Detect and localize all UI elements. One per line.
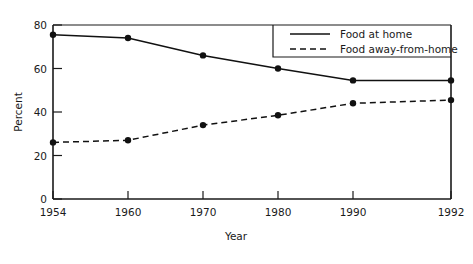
y-tick-label-0: 0 bbox=[40, 193, 47, 205]
y-axis-ticks bbox=[53, 25, 62, 199]
x-tick-label-1970: 1970 bbox=[190, 206, 217, 218]
data-point bbox=[448, 77, 454, 83]
data-point bbox=[50, 139, 56, 145]
legend-label-food-away-from-home: Food away-from-home bbox=[340, 43, 458, 55]
data-point bbox=[275, 112, 281, 118]
series-food-away-from-home-line bbox=[53, 100, 451, 142]
data-point bbox=[200, 122, 206, 128]
data-point bbox=[350, 100, 356, 106]
y-axis-title: Percent bbox=[12, 92, 24, 132]
data-point bbox=[50, 32, 56, 38]
x-tick-label-1990: 1990 bbox=[340, 206, 367, 218]
x-tick-label-1954: 1954 bbox=[40, 206, 67, 218]
line-chart: 80 60 40 20 0 1954 1960 1970 1980 1990 1… bbox=[0, 0, 473, 264]
data-point bbox=[125, 35, 131, 41]
chart-legend: Food at home Food away-from-home bbox=[273, 25, 458, 57]
data-point bbox=[350, 77, 356, 83]
x-axis-title: Year bbox=[224, 230, 248, 242]
x-tick-label-1980: 1980 bbox=[265, 206, 292, 218]
data-point bbox=[125, 137, 131, 143]
y-tick-label-60: 60 bbox=[34, 63, 47, 75]
series-food-away-from-home bbox=[50, 97, 454, 146]
x-tick-label-1992: 1992 bbox=[438, 206, 465, 218]
data-point bbox=[200, 52, 206, 58]
y-tick-label-20: 20 bbox=[34, 150, 47, 162]
y-axis-tick-labels: 80 60 40 20 0 bbox=[34, 19, 47, 205]
x-tick-label-1960: 1960 bbox=[115, 206, 142, 218]
y-tick-label-40: 40 bbox=[34, 106, 47, 118]
data-point bbox=[448, 97, 454, 103]
x-axis-ticks bbox=[53, 191, 451, 199]
y-tick-label-80: 80 bbox=[34, 19, 47, 31]
data-point bbox=[275, 65, 281, 71]
x-axis-tick-labels: 1954 1960 1970 1980 1990 1992 bbox=[40, 206, 465, 218]
chart-figure: 80 60 40 20 0 1954 1960 1970 1980 1990 1… bbox=[0, 0, 473, 264]
legend-label-food-at-home: Food at home bbox=[340, 28, 412, 40]
